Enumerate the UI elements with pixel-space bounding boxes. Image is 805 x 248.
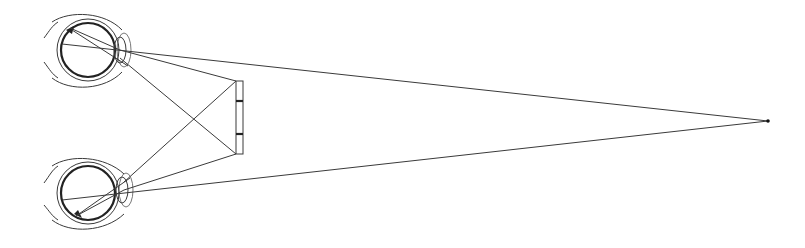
bottom-eye-inner-ray-2	[76, 178, 130, 216]
top-eye-lid-fold-lower	[44, 62, 58, 78]
top-eye-to-screen-top	[120, 50, 236, 81]
bottom-eye-cornea	[119, 173, 133, 207]
bottom-eye-to-screen-bottom	[124, 154, 236, 190]
screen-rect	[236, 81, 243, 154]
top-eye-inner-ray-2	[72, 30, 128, 66]
bottom-eye-lid-fold-lower	[44, 205, 58, 220]
bottom-eye-to-screen-top	[124, 81, 236, 182]
bottom-eye-sclera	[57, 162, 119, 224]
top-eye-lid-fold	[44, 22, 58, 38]
top-eye-lower-lid	[52, 72, 122, 87]
fixation-point	[766, 119, 770, 123]
binocular-vision-diagram	[0, 0, 805, 248]
bottom-eye-retina	[61, 166, 115, 220]
bottom-eye-lower-lid	[52, 214, 124, 229]
top-eye-sight-line	[62, 44, 768, 121]
top-eye	[44, 14, 131, 87]
bottom-eye-lid-fold	[44, 166, 58, 183]
top-eye-to-screen-bottom	[120, 58, 236, 154]
screen-panel	[236, 81, 243, 154]
top-eye-sclera	[57, 19, 119, 81]
bottom-eye-sight-line	[62, 121, 768, 200]
